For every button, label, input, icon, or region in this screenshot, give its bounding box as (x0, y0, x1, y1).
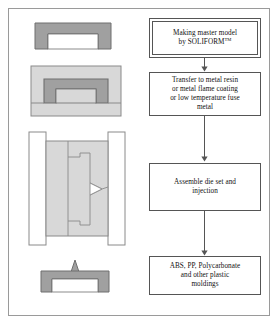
flow-step-2-text: Transfer to metal resin or metal flame c… (167, 76, 243, 113)
arrow-icon (199, 211, 210, 256)
flow-step-1-text: Making master model by SOLIFORMTM (170, 29, 240, 47)
arrow-icon (199, 116, 210, 162)
flow-step-2[interactable]: Transfer to metal resin or metal flame c… (149, 72, 261, 116)
flow-step-4-text: ABS, PP, Polycarbonate and other plastic… (167, 262, 244, 290)
flow-step-2-line2: or metal flame coating (172, 85, 238, 93)
flow-step-2-line3: or low temperature fuse (170, 94, 240, 102)
flow-step-4-line1: ABS, PP, Polycarbonate (170, 262, 241, 270)
flow-step-3-text: Assemble die set and injection (171, 178, 239, 196)
flow-step-4-line3: moldings (191, 280, 218, 288)
arrow-step2-to-step3 (199, 116, 210, 166)
molding-sprue (71, 260, 79, 272)
flow-step-3[interactable]: Assemble die set and injection (149, 163, 261, 211)
flow-step-1[interactable]: Making master model by SOLIFORMTM (149, 18, 261, 58)
embedded-part-cavity (56, 89, 96, 103)
die-plate-left (29, 132, 46, 245)
molding-drawing (38, 258, 112, 294)
flow-step-2-line1: Transfer to metal resin (172, 76, 238, 84)
molding-cavity (52, 279, 98, 292)
flow-step-1-line1: Making master model (173, 29, 237, 37)
illus-die-set (28, 131, 126, 246)
arrow-step3-to-step4 (199, 211, 210, 260)
channel-cavity (48, 34, 98, 49)
flow-step-4-line2: and other plastic (181, 271, 229, 279)
illus-molding (38, 258, 112, 294)
flow-step-3-line1: Assemble die set and (174, 178, 236, 186)
flow-step-3-line2: injection (192, 187, 218, 195)
illus-embedded-model (30, 65, 122, 117)
flow-step-2-line4: metal (197, 103, 213, 111)
trademark-symbol: TM (224, 37, 231, 42)
flow-step-1-line2: by SOLIFORM (179, 38, 225, 46)
master-model-drawing (34, 22, 112, 50)
die-set-drawing (28, 131, 126, 246)
figure-container: Making master model by SOLIFORMTM Transf… (0, 0, 280, 326)
embedded-model-drawing (30, 65, 122, 117)
die-plate-right (108, 132, 125, 245)
flow-step-4[interactable]: ABS, PP, Polycarbonate and other plastic… (149, 256, 261, 295)
flow-step-1-inner-border: Making master model by SOLIFORMTM (152, 21, 258, 55)
illus-master-model (34, 22, 112, 50)
arrow-icon (199, 58, 210, 72)
